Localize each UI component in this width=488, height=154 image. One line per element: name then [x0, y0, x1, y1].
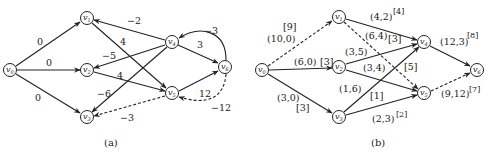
edge-label: (1,6) — [339, 83, 362, 94]
edge-a-v0-v3 — [16, 74, 80, 113]
edge-label: 4 — [117, 70, 123, 81]
caption-b: (b) — [371, 137, 385, 148]
node-a-v0: v0 — [4, 64, 17, 77]
node-b-v2: v2 — [333, 61, 346, 74]
caption-a: (a) — [104, 137, 118, 148]
node-b-v4: v4 — [418, 36, 431, 49]
figure-a-nodes: v0 v1 v2 v3 v4 v5 v6 — [4, 12, 232, 124]
figure-b-edge-labels: [9] (10,0) (6,0) [3] (3,0) [3] (4,2) [4]… — [267, 7, 480, 124]
edge-label: (2,3) — [372, 113, 395, 124]
edge-label: −12 — [211, 102, 231, 113]
edge-bracket: [3] — [296, 102, 309, 113]
edge-bracket: [8] — [467, 31, 478, 40]
node-a-v6: v6 — [219, 61, 232, 74]
figure-a-edges — [16, 20, 226, 116]
edge-label: (6,0) — [294, 56, 317, 67]
edge-b-v0-v2 — [269, 68, 332, 70]
edge-label: (4,2) — [370, 11, 393, 22]
edge-label: 0 — [37, 36, 43, 47]
edge-label: (3,5) — [345, 46, 368, 57]
edge-label: (6,4) — [365, 30, 388, 41]
edge-label: (12,3) — [440, 36, 469, 47]
edge-bracket: [4] — [393, 7, 404, 16]
node-b-v5: v5 — [418, 87, 431, 100]
edge-b-v4-v6 — [430, 46, 470, 66]
node-b-v3: v3 — [333, 111, 346, 124]
edge-label: 0 — [46, 57, 52, 68]
node-b-v0: v0 — [256, 64, 269, 77]
edge-bracket: [1] — [370, 90, 383, 101]
edge-label: −2 — [127, 15, 141, 26]
edge-bracket: [3] — [388, 33, 401, 44]
node-a-v5: v5 — [166, 87, 179, 100]
edge-label: −6 — [97, 88, 111, 99]
edge-label: −3 — [120, 112, 134, 123]
edge-bracket: [5] — [404, 61, 417, 72]
edge-label: −5 — [102, 50, 116, 61]
edge-label: (3,4) — [363, 62, 386, 73]
edge-label: (9,12) — [441, 88, 470, 99]
node-b-v1: v1 — [333, 11, 346, 24]
graph-figure: 0 0 0 −2 4 −5 4 −6 3 −3 12 −12 −3 v0 v1 … — [0, 0, 488, 154]
edge-bracket: [7] — [469, 85, 480, 94]
node-a-v1: v1 — [81, 12, 94, 25]
node-a-v4: v4 — [166, 36, 179, 49]
edge-label: 12 — [199, 88, 211, 99]
edge-label: (10,0) — [267, 33, 296, 44]
edge-bracket: [9] — [283, 21, 296, 32]
node-a-v2: v2 — [81, 64, 94, 77]
edge-bracket: [3] — [320, 56, 333, 67]
node-b-v6: v6 — [471, 64, 484, 77]
edge-label: −3 — [204, 25, 218, 36]
edge-label: 3 — [197, 39, 203, 50]
edge-label: 4 — [120, 36, 126, 47]
edge-label: 0 — [35, 92, 41, 103]
edge-bracket: [2] — [396, 110, 407, 119]
node-a-v3: v3 — [81, 111, 94, 124]
